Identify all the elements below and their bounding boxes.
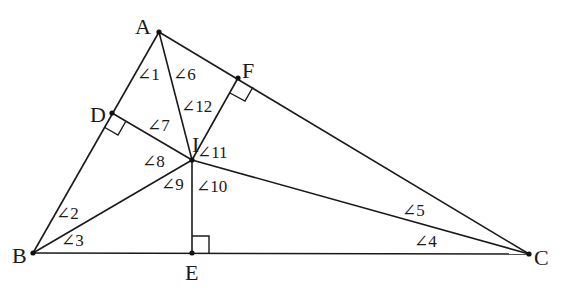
geometry-diagram: A B C D E F I ∠1 ∠6 ∠12 ∠7 ∠11 ∠8 ∠9 ∠10… xyxy=(0,0,562,292)
point-e xyxy=(189,250,194,255)
angle-label-3: ∠3 xyxy=(61,231,84,250)
side-bc xyxy=(33,253,529,254)
point-c xyxy=(526,251,531,256)
angle-label-9: ∠9 xyxy=(161,175,184,194)
angle-label-5: ∠5 xyxy=(402,201,425,220)
angle-label-1: ∠1 xyxy=(137,65,160,84)
angle-label-10: ∠10 xyxy=(196,177,227,196)
point-b xyxy=(30,250,35,255)
label-a: A xyxy=(135,14,151,39)
right-angle-mark-e xyxy=(192,236,209,253)
angle-label-4: ∠4 xyxy=(414,232,437,251)
right-angle-mark-f xyxy=(230,87,253,101)
angle-label-2: ∠2 xyxy=(56,204,79,223)
angle-label-11: ∠11 xyxy=(197,143,228,162)
label-d: D xyxy=(90,102,106,127)
segment-ci xyxy=(192,160,529,254)
label-f: F xyxy=(242,58,254,83)
label-b: B xyxy=(12,243,27,268)
label-e: E xyxy=(185,260,198,285)
angle-label-6: ∠6 xyxy=(173,65,196,84)
point-a xyxy=(156,29,161,34)
angle-label-12: ∠12 xyxy=(181,97,212,116)
point-i xyxy=(189,157,194,162)
triangle-figure: A B C D E F I ∠1 ∠6 ∠12 ∠7 ∠11 ∠8 ∠9 ∠10… xyxy=(0,0,562,292)
point-f xyxy=(235,75,240,80)
point-d xyxy=(109,110,114,115)
label-c: C xyxy=(534,245,549,270)
angle-label-8: ∠8 xyxy=(142,152,165,171)
segment-ai xyxy=(159,32,192,160)
angle-label-7: ∠7 xyxy=(147,116,170,135)
